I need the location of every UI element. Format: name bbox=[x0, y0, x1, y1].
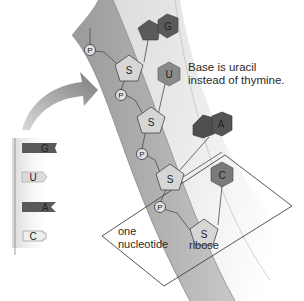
phosphate-4: P bbox=[155, 202, 166, 213]
svg-text:S: S bbox=[148, 117, 155, 128]
svg-text:U: U bbox=[165, 69, 172, 80]
label-nucleotide: nucleotide bbox=[118, 238, 168, 250]
svg-text:P: P bbox=[139, 150, 144, 159]
svg-text:S: S bbox=[126, 65, 133, 76]
svg-text:P: P bbox=[157, 203, 162, 212]
label-ribose: ribose bbox=[189, 239, 219, 251]
phosphate-2: P bbox=[116, 90, 127, 101]
annotation-line-1: Base is uracil bbox=[188, 61, 256, 73]
legend-base-g: G bbox=[22, 143, 57, 154]
phosphate-3: P bbox=[137, 149, 148, 160]
svg-text:A: A bbox=[218, 119, 225, 130]
svg-text:C: C bbox=[29, 231, 36, 242]
legend-base-c: C bbox=[23, 231, 46, 242]
legend-base-a: A bbox=[22, 202, 56, 213]
svg-text:U: U bbox=[29, 172, 36, 183]
svg-text:P: P bbox=[87, 46, 92, 55]
label-one: one bbox=[118, 225, 136, 237]
svg-text:G: G bbox=[41, 143, 49, 154]
svg-text:P: P bbox=[118, 91, 123, 100]
curved-arrow bbox=[22, 72, 98, 130]
svg-text:G: G bbox=[164, 21, 172, 32]
svg-text:S: S bbox=[201, 229, 208, 240]
annotation-line-2: instead of thymine. bbox=[188, 74, 285, 86]
svg-text:C: C bbox=[218, 170, 225, 181]
phosphate-1: P bbox=[85, 45, 96, 56]
svg-text:A: A bbox=[42, 202, 49, 213]
svg-text:S: S bbox=[167, 174, 174, 185]
legend-base-u: U bbox=[22, 172, 47, 183]
rna-structure-diagram: G U A C bbox=[0, 0, 304, 301]
base-legend: G U A C bbox=[12, 138, 57, 255]
